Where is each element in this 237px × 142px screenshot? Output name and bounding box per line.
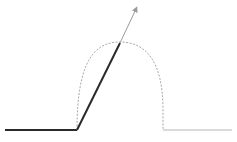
dashed-arch — [77, 42, 163, 130]
diagram-canvas — [0, 0, 237, 142]
extension-arrow — [120, 9, 136, 43]
steep-segment — [77, 43, 120, 130]
